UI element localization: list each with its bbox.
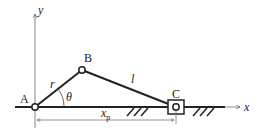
ground-hatch-right [193,108,214,116]
angle-arc [58,89,64,107]
crank-link [35,70,82,107]
joint-c [173,104,179,110]
ground-hatch-left [127,108,148,116]
point-a-label: A [20,92,29,106]
slider-crank-diagram: y x θ A B C r l xp [0,0,258,136]
point-c-label: C [172,87,180,101]
x-axis-label: x [243,100,250,114]
dimension-label: xp [100,106,110,122]
crank-length-label: r [50,77,55,91]
connecting-rod [82,70,176,107]
point-b-label: B [84,51,92,65]
joint-b [79,67,85,73]
y-axis-label: y [37,3,44,17]
dimension-subscript: p [106,113,110,122]
joint-a [32,104,38,110]
rod-length-label: l [131,72,135,86]
angle-label: θ [66,90,72,104]
